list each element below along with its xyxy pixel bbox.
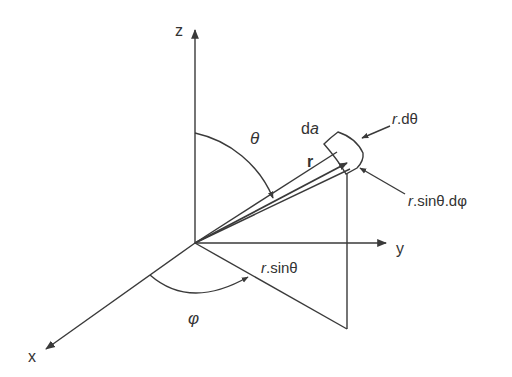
rsindphi-pointer (360, 168, 405, 194)
cone-lower-edge (195, 169, 350, 243)
r-sintheta-label: r.sinθ (261, 259, 298, 276)
rdtheta-pointer (362, 126, 390, 138)
theta-label: θ (250, 129, 260, 148)
projection-line (195, 243, 347, 329)
r-label: r (307, 153, 313, 170)
x-axis (46, 243, 195, 349)
r-vector (195, 163, 347, 243)
theta-arc (195, 133, 273, 198)
y-axis-label: y (396, 240, 404, 257)
x-axis-label: x (28, 348, 36, 365)
r-dtheta-label: r.dθ (392, 110, 418, 127)
spherical-coordinates-diagram: z y x θ φ r da r.dθ r.sinθ.dφ r.sinθ (0, 0, 512, 377)
cone-upper-edge (195, 152, 337, 243)
da-label: da (301, 120, 319, 137)
phi-label: φ (188, 309, 199, 328)
da-patch (324, 132, 363, 174)
r-sintheta-dphi-label: r.sinθ.dφ (408, 192, 467, 209)
phi-arc (150, 275, 248, 293)
z-axis-label: z (175, 22, 183, 39)
